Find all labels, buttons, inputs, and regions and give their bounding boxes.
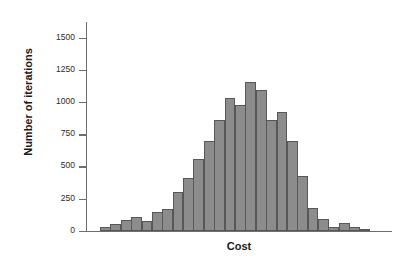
histogram-bar: [193, 159, 204, 231]
histogram-bar: [121, 220, 132, 231]
histogram-bar: [100, 227, 111, 231]
y-axis-tick-label: 1250: [31, 65, 75, 74]
x-axis-title: Cost: [86, 240, 392, 252]
histogram-bar: [328, 227, 339, 231]
y-axis-tick: [79, 166, 86, 167]
histogram-bar: [235, 105, 246, 231]
y-axis-tick: [79, 199, 86, 200]
histogram-bar: [204, 141, 215, 231]
histogram-bar: [349, 227, 360, 231]
y-axis-tick: [79, 38, 86, 39]
y-axis-tick: [79, 70, 86, 71]
y-axis-tick-label: 1500: [31, 33, 75, 42]
y-axis-tick-label: 1000: [31, 97, 75, 106]
y-axis-tick-label: 500: [31, 161, 75, 170]
histogram-bar: [214, 120, 225, 231]
histogram-bars: [86, 22, 392, 231]
histogram-bar: [256, 90, 267, 231]
chart-figure: Number of iterations 0250500750100012501…: [0, 0, 396, 265]
y-axis-tick: [79, 102, 86, 103]
y-axis-tick-label: 750: [31, 129, 75, 138]
histogram-bar: [277, 112, 288, 231]
histogram-bar: [360, 229, 371, 231]
histogram-bar: [308, 208, 319, 231]
y-axis-tick: [79, 134, 86, 135]
histogram-bar: [183, 178, 194, 231]
histogram-bar: [287, 141, 298, 232]
y-axis-tick-label: 250: [31, 194, 75, 203]
histogram-bar: [110, 224, 121, 231]
histogram-bar: [162, 209, 173, 231]
histogram-bar: [245, 82, 256, 231]
y-axis-tick-label: 0: [31, 226, 75, 235]
histogram-bar: [225, 98, 236, 232]
histogram-bar: [131, 217, 142, 231]
histogram-bar: [142, 221, 153, 231]
histogram-bar: [152, 212, 163, 231]
y-axis-tick: [79, 231, 86, 232]
histogram-bar: [173, 192, 184, 231]
histogram-bar: [297, 176, 308, 231]
histogram-bar: [339, 223, 350, 231]
histogram-bar: [266, 120, 277, 231]
histogram-bar: [318, 219, 329, 231]
